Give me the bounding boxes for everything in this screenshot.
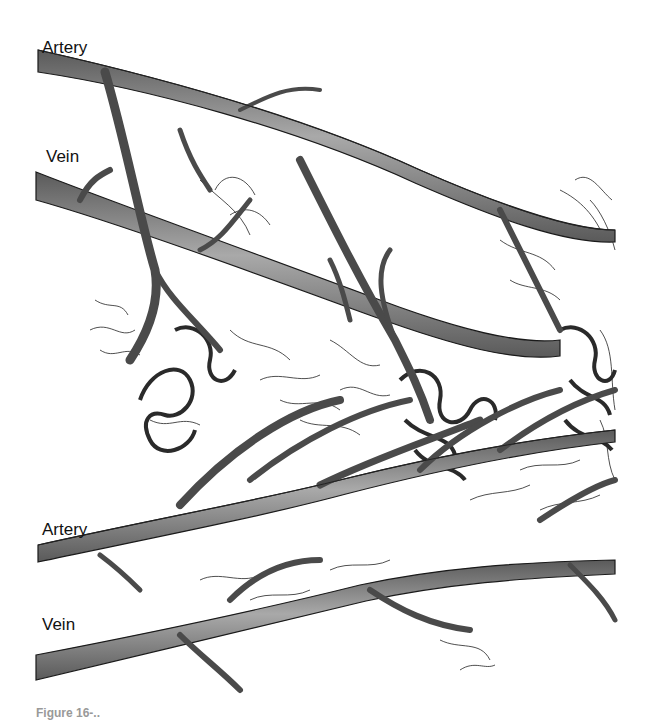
- label-vein-bottom: Vein: [42, 615, 75, 635]
- figure-caption: Figure 16-..: [36, 706, 100, 720]
- label-vein-top: Vein: [46, 147, 79, 167]
- label-artery-top: Artery: [42, 38, 87, 58]
- label-artery-bottom: Artery: [42, 520, 87, 540]
